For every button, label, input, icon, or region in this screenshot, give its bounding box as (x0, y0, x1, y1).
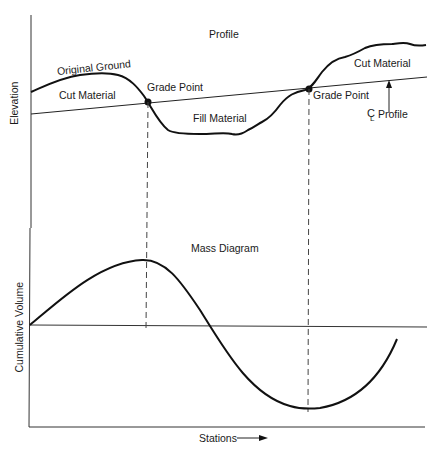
profile-title: Profile (209, 29, 239, 40)
mass-y-axis (29, 228, 30, 427)
cut-material-left-label: Cut Material (59, 90, 116, 101)
cut-material-right-label: Cut Material (354, 58, 411, 69)
fill-material-label: Fill Material (193, 113, 247, 124)
cumulative-volume-axis-label: Cumulative Volume (14, 277, 25, 377)
elevation-axis-label: Elevation (9, 81, 20, 125)
centerline-profile-label: Profile (378, 109, 408, 120)
mass-diagram-title: Mass Diagram (191, 243, 259, 254)
centerline-subscript: L (370, 115, 374, 123)
grade-point-1-label: Grade Point (147, 82, 203, 93)
grade-point-2-label: Grade Point (313, 90, 369, 101)
stations-axis-label: Stations (199, 433, 237, 444)
mass-curve (30, 260, 397, 409)
stations-arrow-head-icon (259, 435, 268, 441)
grade-point-2-projection (308, 89, 309, 412)
mass-baseline (30, 325, 427, 327)
grade-point-1-projection (146, 102, 148, 330)
